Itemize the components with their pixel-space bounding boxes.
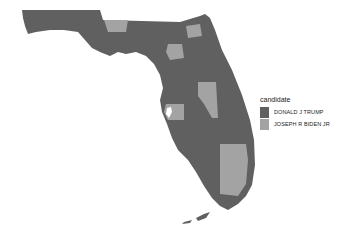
florida-keys-tail <box>182 220 192 224</box>
legend-item-trump: DONALD J TRUMP <box>260 106 330 118</box>
legend-title: candidate <box>260 96 330 103</box>
county-gadsden-leon <box>104 20 128 32</box>
map-legend: candidate DONALD J TRUMP JOSEPH R BIDEN … <box>260 96 330 130</box>
legend-item-biden: JOSEPH R BIDEN JR <box>260 118 330 130</box>
legend-label-biden: JOSEPH R BIDEN JR <box>274 121 330 127</box>
county-duval <box>186 24 202 38</box>
florida-keys <box>196 212 210 221</box>
legend-label-trump: DONALD J TRUMP <box>274 109 324 115</box>
legend-swatch-trump <box>260 107 269 118</box>
legend-swatch-biden <box>260 119 269 130</box>
